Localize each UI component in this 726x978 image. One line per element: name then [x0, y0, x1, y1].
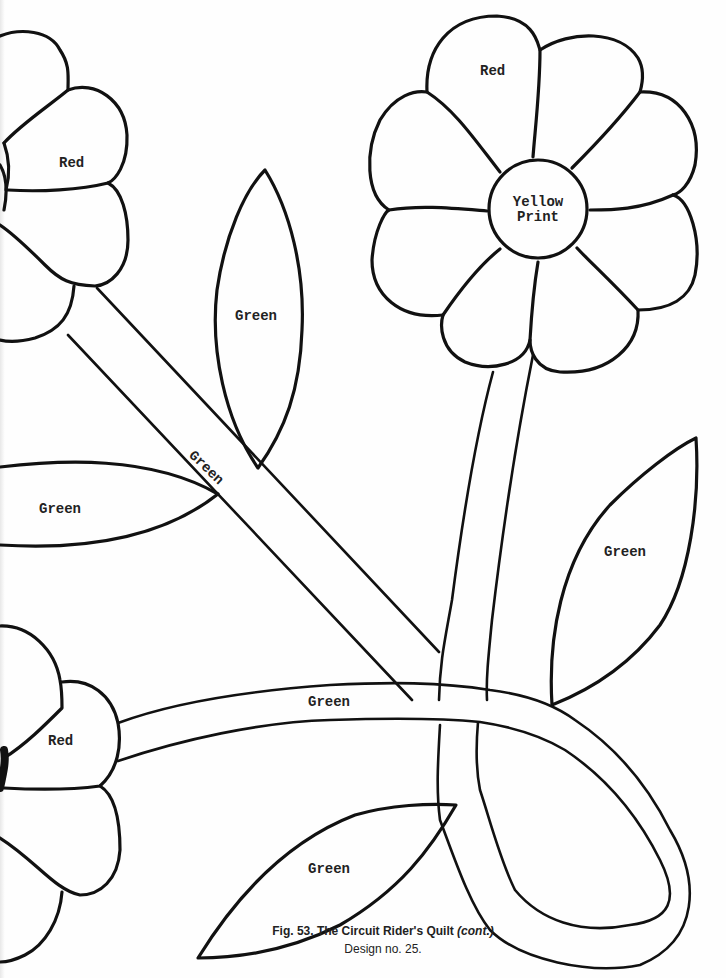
caption-title-line: Fig. 53. The Circuit Rider's Quilt (cont… [40, 924, 726, 938]
top-left-flower [0, 32, 128, 342]
quilt-pattern-drawing [0, 0, 726, 978]
diagonal-stem [68, 288, 439, 700]
upper-leaf-label: Green [235, 309, 277, 323]
figure-caption: Fig. 53. The Circuit Rider's Quilt (cont… [0, 924, 726, 956]
top-left-flower-petal-label: Red [59, 156, 84, 170]
bottom-left-flower-petal-label: Red [48, 734, 73, 748]
right-leaf-label: Green [604, 545, 646, 559]
bottom-leaf-label: Green [308, 862, 350, 876]
top-right-flower-center-label: Yellow Print [499, 195, 577, 225]
pattern-page: Red Yellow Print Red Green Green Green G… [0, 0, 726, 978]
top-right-flower-petal-label: Red [480, 64, 505, 78]
right-leaf [551, 438, 697, 705]
center-label-line1: Yellow [499, 195, 577, 210]
left-leaf [0, 462, 218, 546]
horizontal-stem-label: Green [308, 695, 350, 709]
caption-title: Fig. 53. The Circuit Rider's Quilt [272, 924, 454, 938]
caption-subtitle: Design no. 25. [40, 942, 726, 956]
bottom-left-flower [0, 626, 120, 962]
left-leaf-label: Green [39, 502, 81, 516]
vertical-stem [439, 355, 533, 700]
caption-suffix: (cont.) [457, 924, 494, 938]
center-label-line2: Print [499, 210, 577, 225]
